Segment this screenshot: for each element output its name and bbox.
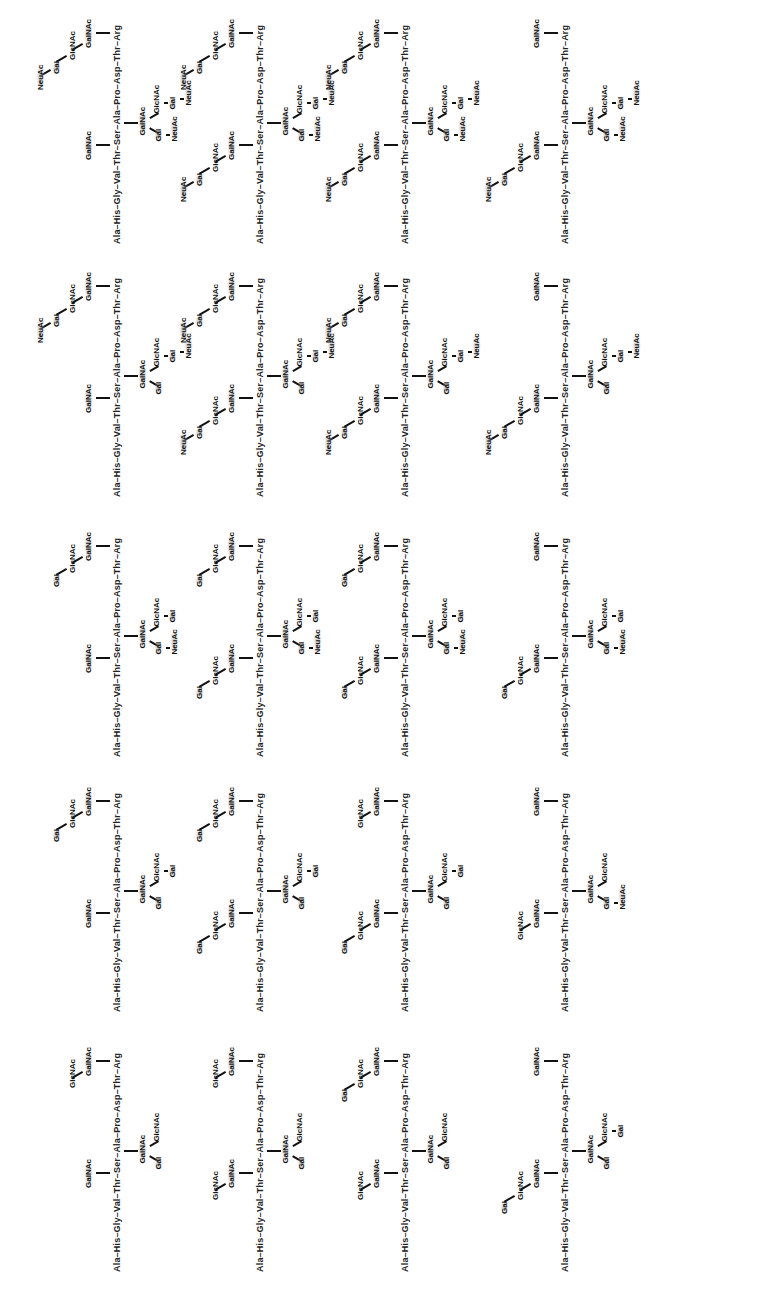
peptide-backbone: Ala–His–Gly–Val–Thr–Ser–Ala–Pro–Asp–Thr–… <box>255 538 265 757</box>
sugar-gal: Gal <box>602 897 611 910</box>
residue-ala: Ala– <box>560 1252 570 1272</box>
sugar-galnac: GalNAc <box>372 1047 381 1076</box>
residue-asp: Asp– <box>560 1089 570 1112</box>
residue-ala: Ala– <box>560 358 570 378</box>
sugar-galnac: GalNAc <box>281 1135 290 1164</box>
residue-val: Val– <box>400 933 410 952</box>
residue-ala: Ala– <box>560 618 570 638</box>
residue-asp: Asp– <box>400 61 410 84</box>
residue-his: His– <box>255 457 265 477</box>
sugar-gal: Gal <box>616 97 625 110</box>
residue-asp: Asp– <box>255 574 265 597</box>
residue-arg: Arg <box>255 538 265 554</box>
sugar-galnac: GalNAc <box>84 787 93 816</box>
sugar-glcnac: GlcNAc <box>356 656 365 685</box>
glycosidic-bond <box>544 33 558 35</box>
residue-pro: Pro– <box>112 1112 122 1133</box>
residue-ala: Ala– <box>400 224 410 244</box>
sugar-gal: Gal <box>340 61 349 74</box>
sugar-gal: Gal <box>195 426 204 439</box>
sugar-galnac: GalNAc <box>426 875 435 904</box>
glycopeptide-structure: Ala–His–Gly–Val–Thr–Ser–Ala–Pro–Asp–Thr–… <box>0 0 262 195</box>
residue-his: His– <box>560 457 570 477</box>
sugar-galnac: GalNAc <box>227 787 236 816</box>
residue-ala: Ala– <box>112 477 122 497</box>
peptide-backbone: Ala–His–Gly–Val–Thr–Ser–Ala–Pro–Asp–Thr–… <box>560 25 570 244</box>
sugar-neuac: NeuAc <box>179 430 188 455</box>
residue-ser: Ser– <box>400 378 410 398</box>
sugar-galnac: GalNAc <box>227 532 236 561</box>
sugar-gal: Gal <box>195 941 204 954</box>
residue-asp: Asp– <box>112 574 122 597</box>
glycosidic-bond <box>452 102 456 104</box>
sugar-gal: Gal <box>616 1125 625 1138</box>
sugar-glcnac: GlcNAc <box>356 1171 365 1200</box>
sugar-glcnac: GlcNAc <box>356 799 365 828</box>
glycosidic-bond <box>412 635 426 637</box>
residue-ser: Ser– <box>112 893 122 913</box>
glycosidic-bond <box>412 890 426 892</box>
residue-thr: Thr– <box>400 1069 410 1089</box>
glycosidic-bond <box>544 286 558 288</box>
residue-his: His– <box>112 1232 122 1252</box>
sugar-neuac: NeuAc <box>484 177 493 202</box>
glycosidic-bond <box>384 801 398 803</box>
residue-ala: Ala– <box>112 873 122 893</box>
residue-ala: Ala– <box>400 737 410 757</box>
peptide-backbone: Ala–His–Gly–Val–Thr–Ser–Ala–Pro–Asp–Thr–… <box>255 1053 265 1272</box>
residue-arg: Arg <box>400 793 410 809</box>
residue-his: His– <box>112 457 122 477</box>
sugar-galnac: GalNAc <box>532 1159 541 1188</box>
sugar-glcnac: GlcNAc <box>211 911 220 940</box>
sugar-neuac: NeuAc <box>36 318 45 343</box>
glycosidic-bond <box>614 134 618 136</box>
sugar-glcnac: GlcNAc <box>211 656 220 685</box>
sugar-gal: Gal <box>442 897 451 910</box>
residue-arg: Arg <box>255 278 265 294</box>
sugar-gal: Gal <box>195 829 204 842</box>
residue-asp: Asp– <box>112 1089 122 1112</box>
residue-arg: Arg <box>400 538 410 554</box>
residue-his: His– <box>560 972 570 992</box>
residue-ala: Ala– <box>560 224 570 244</box>
residue-thr: Thr– <box>255 294 265 314</box>
peptide-backbone: Ala–His–Gly–Val–Thr–Ser–Ala–Pro–Asp–Thr–… <box>400 278 410 497</box>
glycosidic-bond <box>612 615 616 617</box>
sugar-galnac: GalNAc <box>586 620 595 649</box>
glycosidic-bond <box>124 635 138 637</box>
sugar-galnac: GalNAc <box>227 384 236 413</box>
residue-thr: Thr– <box>255 658 265 678</box>
sugar-neuac: NeuAc <box>632 80 641 105</box>
residue-thr: Thr– <box>560 809 570 829</box>
sugar-glcnac: GlcNAc <box>600 1113 609 1142</box>
residue-his: His– <box>255 204 265 224</box>
residue-thr: Thr– <box>560 913 570 933</box>
residue-ala: Ala– <box>400 1252 410 1272</box>
residue-ala: Ala– <box>400 105 410 125</box>
sugar-glcnac: GlcNAc <box>600 85 609 114</box>
residue-val: Val– <box>400 678 410 697</box>
sugar-gal: Gal <box>442 129 451 142</box>
sugar-neuac: NeuAc <box>324 177 333 202</box>
residue-asp: Asp– <box>255 314 265 337</box>
residue-asp: Asp– <box>400 314 410 337</box>
residue-thr: Thr– <box>112 809 122 829</box>
residue-thr: Thr– <box>255 554 265 574</box>
residue-arg: Arg <box>400 25 410 41</box>
residue-asp: Asp– <box>255 1089 265 1112</box>
sugar-glcnac: GlcNAc <box>68 799 77 828</box>
residue-his: His– <box>112 717 122 737</box>
sugar-glcnac: GlcNAc <box>600 338 609 367</box>
sugar-gal: Gal <box>602 642 611 655</box>
sugar-gal: Gal <box>442 642 451 655</box>
glycosidic-bond <box>384 398 398 400</box>
glycosidic-bond <box>572 375 586 377</box>
glycosidic-bond <box>614 647 618 649</box>
sugar-glcnac: GlcNAc <box>211 1171 220 1200</box>
residue-ala: Ala– <box>255 618 265 638</box>
sugar-galnac: GalNAc <box>586 360 595 389</box>
sugar-neuac: NeuAc <box>484 430 493 455</box>
residue-val: Val– <box>255 933 265 952</box>
residue-ala: Ala– <box>400 873 410 893</box>
sugar-gal: Gal <box>340 173 349 186</box>
